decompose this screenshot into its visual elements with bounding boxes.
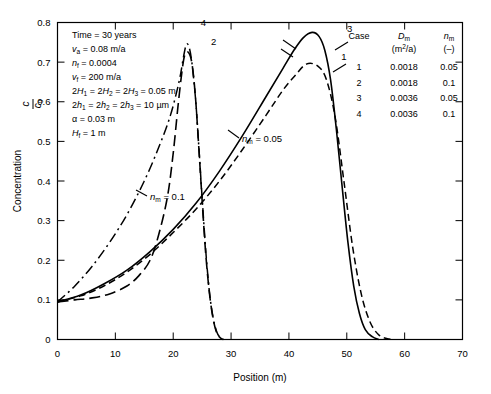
legend-table: Case Dm (m2/a) nm (–) 10.00180.0520.0018… <box>348 31 457 119</box>
x-tick-label: 60 <box>399 348 410 359</box>
y-axis-label-group: Concentration <box>12 150 23 212</box>
legend-rows: 10.00180.0520.00180.130.00360.0540.00360… <box>356 62 457 119</box>
arrow-to-curve-3 <box>335 42 348 50</box>
param-H: 2H1 = 2H2 = 2H3 = 0.05 m <box>72 86 176 97</box>
annotation-arrows <box>136 130 239 196</box>
y-tick-label: 0 <box>45 334 50 345</box>
arrow-to-curve-1 <box>333 64 346 72</box>
x-tick-label: 40 <box>284 348 295 359</box>
y-tick-label: 0.4 <box>37 176 50 187</box>
x-tick-label: 50 <box>341 348 352 359</box>
legend-cell-nm: 0.1 <box>443 109 456 119</box>
legend-header-dm: Dm <box>398 31 411 42</box>
curve-label-arrows <box>281 40 348 72</box>
legend-cell-dm: 0.0036 <box>390 109 418 119</box>
y-axis-fraction: c c0 <box>20 99 44 109</box>
param-Hf: Hf = 1 m <box>72 128 106 139</box>
param-vf: vf = 200 m/a <box>72 72 121 83</box>
y-axis-label-main: Concentration <box>12 150 23 212</box>
inline-annotations: nm = 0.1 nm = 0.05 <box>150 133 282 203</box>
y-axis-denominator: c0 <box>32 99 44 108</box>
legend-cell-dm: 0.0036 <box>390 93 418 103</box>
y-tick-label: 0.7 <box>37 57 50 68</box>
legend-header-nm-unit: (–) <box>444 44 455 54</box>
legend-cell-case: 1 <box>356 62 361 72</box>
annotation-nm-0p05: nm = 0.05 <box>242 133 282 145</box>
arrow-to-curve-4 <box>283 40 296 49</box>
curve-label-1: 1 <box>341 51 346 62</box>
param-nf: nf = 0.0004 <box>72 58 117 69</box>
legend-cell-dm: 0.0018 <box>390 78 418 88</box>
chart-figure: 010203040506070 00.10.20.30.40.50.60.70.… <box>0 0 491 394</box>
legend-cell-case: 2 <box>356 78 361 88</box>
legend-cell-nm: 0.1 <box>443 78 456 88</box>
legend-cell-dm: 0.0018 <box>390 62 418 72</box>
y-tick-label: 0.5 <box>37 136 50 147</box>
arrow-to-curve-2 <box>281 49 293 57</box>
arrow-nm-0p05 <box>228 130 239 138</box>
x-tick-label: 20 <box>168 348 179 359</box>
curve-number-labels: 1234 <box>201 17 353 62</box>
curve-label-2: 2 <box>211 36 216 47</box>
parameter-text-block: Time = 30 years va = 0.08 m/a nf = 0.000… <box>72 30 176 139</box>
legend-header-dm-unit: (m2/a) <box>392 43 417 54</box>
curve-label-4: 4 <box>201 17 206 28</box>
x-axis-tick-labels: 010203040506070 <box>55 348 468 359</box>
y-tick-label: 0.3 <box>37 215 50 226</box>
y-tick-label: 0.1 <box>37 294 50 305</box>
legend-cell-case: 4 <box>356 109 361 119</box>
x-axis-label: Position (m) <box>233 372 286 383</box>
param-time: Time = 30 years <box>72 30 137 40</box>
chart-svg: 010203040506070 00.10.20.30.40.50.60.70.… <box>0 0 491 394</box>
y-tick-label: 0.2 <box>37 255 50 266</box>
param-alpha: α = 0.03 m <box>72 114 115 124</box>
y-tick-label: 0.8 <box>37 17 50 28</box>
param-h: 2h1 = 2h2 = 2h3 = 10 µm <box>72 100 169 111</box>
x-tick-label: 0 <box>55 348 60 359</box>
x-tick-label: 30 <box>226 348 237 359</box>
param-va: va = 0.08 m/a <box>72 44 125 55</box>
legend-cell-nm: 0.05 <box>440 93 458 103</box>
legend-cell-case: 3 <box>356 93 361 103</box>
legend-cell-nm: 0.05 <box>440 62 458 72</box>
y-axis-tick-labels: 00.10.20.30.40.50.60.70.8 <box>37 17 50 345</box>
y-axis-numerator: c <box>20 102 31 107</box>
x-tick-label: 10 <box>110 348 121 359</box>
annotation-nm-0p1: nm = 0.1 <box>150 191 185 203</box>
legend-header-nm: nm <box>444 31 455 42</box>
legend-header-case: Case <box>348 31 369 41</box>
x-tick-label: 70 <box>457 348 468 359</box>
